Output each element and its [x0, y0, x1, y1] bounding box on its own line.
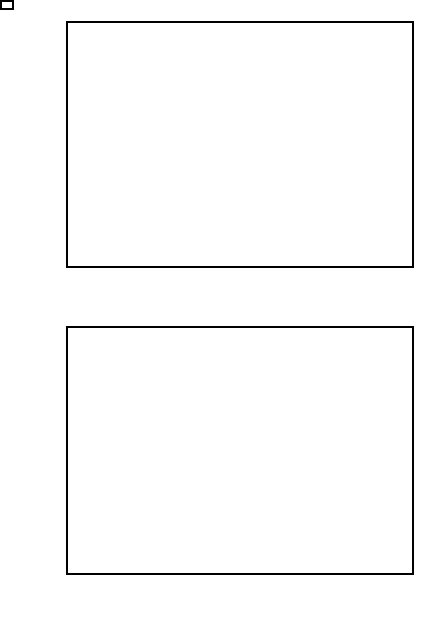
series-canvas-top	[68, 23, 412, 266]
plot-area-bottom	[66, 326, 414, 575]
heritability-chart-panel	[0, 0, 448, 320]
legend-top	[0, 0, 14, 10]
series-canvas-bottom	[68, 328, 412, 573]
plot-area-top	[66, 21, 414, 268]
figure-page	[0, 0, 448, 637]
shared-environment-chart-panel	[0, 318, 448, 637]
